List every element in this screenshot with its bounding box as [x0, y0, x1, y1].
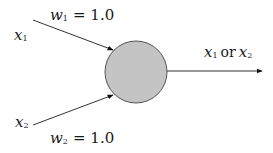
output-connector: or	[221, 44, 236, 60]
neuron-node	[105, 41, 167, 103]
input-label-x1: x1	[14, 27, 28, 43]
output-sub-b: 2	[247, 51, 252, 60]
weight-var: w	[50, 129, 63, 147]
output-var-b: x	[239, 43, 247, 61]
weight-value: = 1.0	[73, 129, 114, 147]
input-sub: 1	[22, 34, 27, 43]
weight-label-w2: w2 = 1.0	[50, 130, 114, 146]
weight-sub: 1	[63, 14, 68, 23]
input-arrow-2	[33, 95, 113, 125]
weight-label-w1: w1 = 1.0	[50, 7, 114, 23]
weight-value: = 1.0	[73, 6, 114, 24]
weight-var: w	[50, 6, 63, 24]
neuron-diagram	[0, 0, 273, 153]
output-label: x1orx2	[204, 44, 252, 60]
input-arrow-1	[33, 20, 113, 50]
input-label-x2: x2	[15, 114, 29, 130]
output-sub-a: 1	[212, 51, 217, 60]
weight-sub: 2	[63, 137, 68, 146]
input-sub: 2	[23, 121, 28, 130]
